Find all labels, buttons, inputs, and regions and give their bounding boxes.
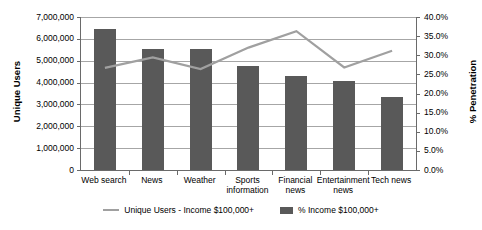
tick-mark	[416, 94, 420, 95]
y-axis-right-tick-label: 35.0%	[424, 32, 482, 41]
y-axis-right-tick-label: 10.0%	[424, 127, 482, 136]
legend-item[interactable]: Unique Users - Income $100,000+	[103, 205, 254, 215]
chart-container: Unique Users % Penetration 01,000,0002,0…	[0, 0, 482, 230]
y-axis-right-tick-label: 25.0%	[424, 70, 482, 79]
y-axis-right-tick-label: 30.0%	[424, 51, 482, 60]
tick-mark	[416, 17, 420, 18]
tick-mark	[416, 36, 420, 37]
y-axis-left-tick-label: 0	[8, 166, 74, 175]
y-axis-right-tick-label: 20.0%	[424, 89, 482, 98]
category-separator	[225, 170, 226, 175]
y-axis-right-tick-label: 0.0%	[424, 166, 482, 175]
legend-bar-swatch-icon	[280, 207, 293, 214]
tick-mark	[416, 74, 420, 75]
tick-mark	[416, 55, 420, 56]
category-separator	[129, 170, 130, 175]
y-axis-left-tick-label: 6,000,000	[8, 34, 74, 43]
line-path	[105, 31, 392, 69]
y-axis-left-tick-label: 2,000,000	[8, 122, 74, 131]
y-axis-left-tick-label: 1,000,000	[8, 144, 74, 153]
tick-mark	[416, 132, 420, 133]
y-axis-left-tick-label: 5,000,000	[8, 56, 74, 65]
y-axis-right-tick-label: 15.0%	[424, 108, 482, 117]
tick-mark	[416, 113, 420, 114]
y-axis-right-tick-label: 40.0%	[424, 13, 482, 22]
line-series	[81, 17, 416, 170]
y-axis-left-tick-label: 7,000,000	[8, 13, 74, 22]
x-axis-label: Tech news	[361, 176, 421, 186]
tick-mark	[416, 151, 420, 152]
tick-mark	[77, 170, 81, 171]
y-axis-right-tick-label: 5.0%	[424, 146, 482, 155]
category-separator	[177, 170, 178, 175]
tick-mark	[416, 170, 420, 171]
legend-item[interactable]: % Income $100,000+	[280, 205, 379, 215]
category-separator	[272, 170, 273, 175]
legend-label: % Income $100,000+	[298, 205, 379, 215]
y-axis-left-tick-label: 4,000,000	[8, 78, 74, 87]
plot-area	[80, 17, 417, 171]
y-axis-left-tick-label: 3,000,000	[8, 100, 74, 109]
legend-label: Unique Users - Income $100,000+	[124, 205, 254, 215]
legend-line-swatch-icon	[103, 209, 119, 212]
chart-legend: Unique Users - Income $100,000+% Income …	[0, 205, 482, 215]
